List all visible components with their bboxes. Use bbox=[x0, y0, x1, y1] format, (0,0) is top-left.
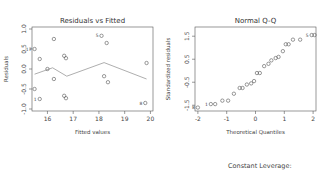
x-tick-label: 18 bbox=[95, 115, 103, 122]
data-point bbox=[226, 99, 229, 102]
data-point bbox=[270, 59, 273, 62]
data-point bbox=[245, 83, 248, 86]
data-point bbox=[262, 64, 265, 67]
data-point bbox=[64, 57, 67, 60]
data-point bbox=[291, 38, 294, 41]
point-label: 1 bbox=[34, 97, 37, 102]
x-tick-label: 2 bbox=[311, 115, 315, 122]
normal-qq-plot: Normal Q-Q-2-1012-1.5-0.50.51.5Theoretic… bbox=[165, 17, 316, 135]
point-label: 5 bbox=[306, 33, 309, 38]
data-point bbox=[252, 79, 255, 82]
data-point bbox=[105, 41, 108, 44]
point-label: 5 bbox=[96, 33, 99, 38]
y-tick-label: 1.5 bbox=[183, 31, 190, 41]
y-axis-label: Standardized residuals bbox=[165, 38, 171, 101]
x-axis-label: Theoretical Quantiles bbox=[225, 129, 285, 135]
y-tick-label: 0.5 bbox=[183, 54, 190, 64]
data-point bbox=[281, 49, 284, 52]
data-point bbox=[221, 99, 224, 102]
x-tick-label: 17 bbox=[69, 115, 77, 122]
data-point bbox=[64, 97, 67, 100]
point-label: 17 bbox=[26, 47, 32, 52]
data-point bbox=[38, 57, 41, 60]
y-tick-label: -0.5 bbox=[183, 76, 190, 88]
point-label: 8 bbox=[139, 101, 142, 106]
data-point bbox=[232, 92, 235, 95]
data-point bbox=[213, 102, 216, 105]
residuals-vs-fitted-plot: Residuals vs Fitted1617181920-1.0-0.50.0… bbox=[3, 17, 154, 135]
smoother-line bbox=[35, 63, 147, 79]
y-axis-label: Residuals bbox=[3, 56, 9, 82]
data-point bbox=[209, 102, 212, 105]
y-tick-label: 1.0 bbox=[20, 24, 27, 34]
data-point bbox=[102, 75, 105, 78]
x-axis-label: Fitted values bbox=[75, 129, 110, 135]
y-tick-label: -0.5 bbox=[20, 83, 27, 95]
data-point bbox=[267, 62, 270, 65]
x-tick-label: -1 bbox=[224, 115, 230, 122]
data-point bbox=[62, 94, 65, 97]
data-point bbox=[196, 106, 199, 109]
data-point bbox=[144, 101, 147, 104]
x-tick-label: -2 bbox=[195, 115, 201, 122]
data-point bbox=[38, 97, 41, 100]
x-tick-label: 0 bbox=[254, 115, 258, 122]
x-tick-label: 19 bbox=[121, 115, 129, 122]
constant-leverage-title: Constant Leverage: bbox=[228, 162, 292, 170]
x-tick-label: 1 bbox=[282, 115, 286, 122]
y-tick-label: -1.5 bbox=[183, 99, 190, 111]
y-tick-label: -1.0 bbox=[20, 103, 27, 115]
plot-title: Residuals vs Fitted bbox=[60, 17, 125, 25]
point-label: 8 bbox=[192, 105, 195, 110]
data-point bbox=[100, 34, 103, 37]
data-point bbox=[249, 82, 252, 85]
data-point bbox=[62, 54, 65, 57]
x-tick-label: 16 bbox=[44, 115, 52, 122]
diagnostic-plots: Residuals vs Fitted1617181920-1.0-0.50.0… bbox=[0, 0, 317, 175]
x-tick-label: 20 bbox=[147, 115, 155, 122]
plot-title: Normal Q-Q bbox=[235, 17, 277, 25]
data-point bbox=[33, 87, 36, 90]
data-point bbox=[298, 38, 301, 41]
data-point bbox=[52, 77, 55, 80]
data-point bbox=[277, 55, 280, 58]
data-point bbox=[145, 61, 148, 64]
data-point bbox=[52, 37, 55, 40]
data-point bbox=[33, 47, 36, 50]
point-label: 1 bbox=[205, 102, 208, 107]
y-tick-label: 0.0 bbox=[20, 64, 27, 74]
plot-frame bbox=[195, 27, 316, 111]
data-point bbox=[106, 81, 109, 84]
